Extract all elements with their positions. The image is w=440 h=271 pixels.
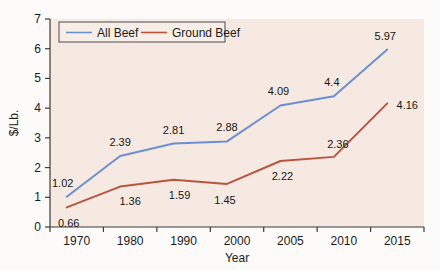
data-point-label: 2.39	[109, 136, 130, 148]
y-tick-label: 3	[34, 131, 41, 145]
chart-container: 01234567 1970198019902000200520102015 $/…	[0, 0, 440, 271]
y-tick-label: 4	[34, 101, 41, 115]
y-tick-label: 1	[34, 190, 41, 204]
data-point-label: 1.36	[119, 195, 140, 207]
x-axis-title: Year	[225, 251, 249, 265]
legend-label-ground-beef: Ground Beef	[172, 26, 241, 40]
data-point-label: 5.97	[375, 30, 396, 42]
data-point-label: 2.88	[216, 121, 237, 133]
data-point-label: 4.09	[268, 85, 289, 97]
line-chart: 01234567 1970198019902000200520102015 $/…	[0, 0, 440, 271]
y-tick-label: 7	[34, 12, 41, 26]
x-tick-label: 2005	[277, 234, 304, 248]
data-point-label: 2.81	[163, 124, 184, 136]
data-point-label: 2.36	[327, 138, 348, 150]
data-point-label: 2.22	[272, 170, 293, 182]
x-tick-label: 2015	[384, 234, 411, 248]
data-point-label: 1.45	[214, 194, 235, 206]
legend-label-all-beef: All Beef	[97, 26, 139, 40]
y-tick-label: 6	[34, 42, 41, 56]
x-tick-label: 1970	[63, 234, 90, 248]
chart-legend: All Beef Ground Beef	[59, 22, 241, 42]
data-point-label: 1.02	[52, 177, 73, 189]
x-tick-label: 1980	[117, 234, 144, 248]
x-tick-label: 1990	[170, 234, 197, 248]
data-point-label: 0.66	[58, 217, 79, 229]
data-point-label: 1.59	[169, 189, 190, 201]
y-tick-label: 2	[34, 161, 41, 175]
y-tick-label: 5	[34, 71, 41, 85]
x-axis-ticks: 1970198019902000200520102015	[50, 227, 424, 248]
x-tick-label: 2010	[331, 234, 358, 248]
x-tick-label: 2000	[224, 234, 251, 248]
y-axis-title: $/Lb.	[7, 110, 21, 137]
data-point-label: 4.4	[324, 76, 339, 88]
y-tick-label: 0	[34, 220, 41, 234]
y-axis-ticks: 01234567	[34, 12, 50, 234]
data-point-label: 4.16	[397, 99, 418, 111]
